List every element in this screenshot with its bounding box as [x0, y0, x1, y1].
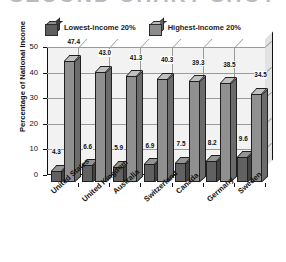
cube-swatch-icon — [45, 21, 60, 34]
legend-label-highest-income: Highest-income 20% — [168, 23, 241, 32]
bar-high-sweden — [251, 94, 262, 182]
bar-low-switzerland — [144, 164, 155, 182]
x-axis-labels: United StatesUnited KingdomAustraliaSwit… — [0, 183, 286, 262]
legend-label-lowest-income: Lowest-income 20% — [64, 23, 136, 32]
x-tick-mark — [203, 183, 204, 187]
chart-legend: Lowest-income 20% Highest-income 20% — [0, 18, 286, 36]
bar-high-germany — [220, 83, 231, 182]
bar-high-united-kingdom — [95, 72, 106, 182]
y-tick-mark — [43, 149, 47, 150]
y-tick-mark — [43, 73, 47, 74]
y-tick-label: 50 — [8, 42, 38, 51]
bar-value-label: 34.5 — [254, 71, 267, 79]
bar-value-label: 9.6 — [238, 135, 248, 143]
bar-high-united-states — [64, 61, 75, 182]
chart-title-text: SECOND CHART SHOT — [9, 0, 276, 7]
bar-value-label: 6.6 — [83, 143, 93, 151]
x-tick-mark — [234, 183, 235, 187]
x-tick-mark — [140, 183, 141, 187]
chart-figure: SECOND CHART SHOT Lowest-income 20% High… — [0, 0, 286, 262]
x-tick-mark — [109, 183, 110, 187]
bar-value-label: 7.5 — [176, 140, 186, 148]
y-tick-mark — [43, 175, 47, 176]
bar-value-label: 40.3 — [160, 56, 173, 64]
bar-value-label: 43.0 — [98, 49, 111, 57]
x-tick-mark — [78, 183, 79, 187]
bar-high-switzerland — [157, 79, 168, 182]
bar-low-germany — [206, 161, 217, 182]
bar-value-label: 8.2 — [207, 139, 217, 147]
y-tick-mark — [43, 47, 47, 48]
x-tick-mark — [265, 183, 266, 187]
bar-value-label: 5.9 — [114, 144, 124, 152]
bar-value-label: 6.9 — [145, 142, 155, 150]
bar-high-canada — [189, 81, 200, 182]
y-tick-label: 40 — [8, 68, 38, 77]
bar-value-label: 41.3 — [129, 54, 142, 62]
bar-value-label: 39.3 — [192, 59, 205, 67]
chart-title-clipped: SECOND CHART SHOT — [0, 0, 286, 9]
bar-value-label: 4.3 — [52, 148, 62, 156]
y-tick-mark — [43, 98, 47, 99]
y-tick-label: 30 — [8, 93, 38, 102]
cube-swatch-icon — [149, 21, 164, 34]
bar-value-label: 38.5 — [223, 61, 236, 69]
y-tick-label: 10 — [8, 144, 38, 153]
y-tick-label: 0 — [8, 170, 38, 179]
legend-item-highest-income: Highest-income 20% — [149, 21, 241, 34]
x-tick-mark — [172, 183, 173, 187]
y-tick-mark — [43, 124, 47, 125]
y-tick-label: 20 — [8, 119, 38, 128]
grid-line — [47, 47, 265, 48]
legend-item-lowest-income: Lowest-income 20% — [45, 21, 136, 34]
bar-value-label: 47.4 — [67, 38, 80, 46]
